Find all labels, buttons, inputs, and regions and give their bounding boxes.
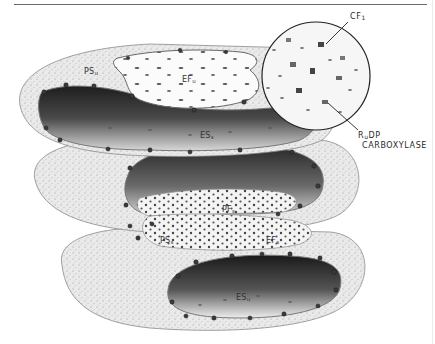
callout-cf1: CF1 (350, 12, 366, 22)
label-ef-s: EFs (266, 237, 279, 246)
label-ps-s: PSs (160, 237, 174, 246)
label-es-u: ESu (236, 294, 251, 303)
callout-rudp-carboxylase: RuDP CARBOXYLASE (358, 131, 427, 150)
label-ps-u: PSu (84, 68, 98, 77)
magnified-inset (262, 22, 370, 130)
label-ef-u: EFu (182, 76, 196, 85)
callout-rudp-line1: RuDP (358, 131, 427, 141)
callout-rudp-line2: CARBOXYLASE (362, 141, 427, 150)
thylakoid-illustration (0, 0, 435, 344)
label-pf-s: PFs (222, 206, 235, 215)
label-es-s: ESs (200, 132, 214, 141)
